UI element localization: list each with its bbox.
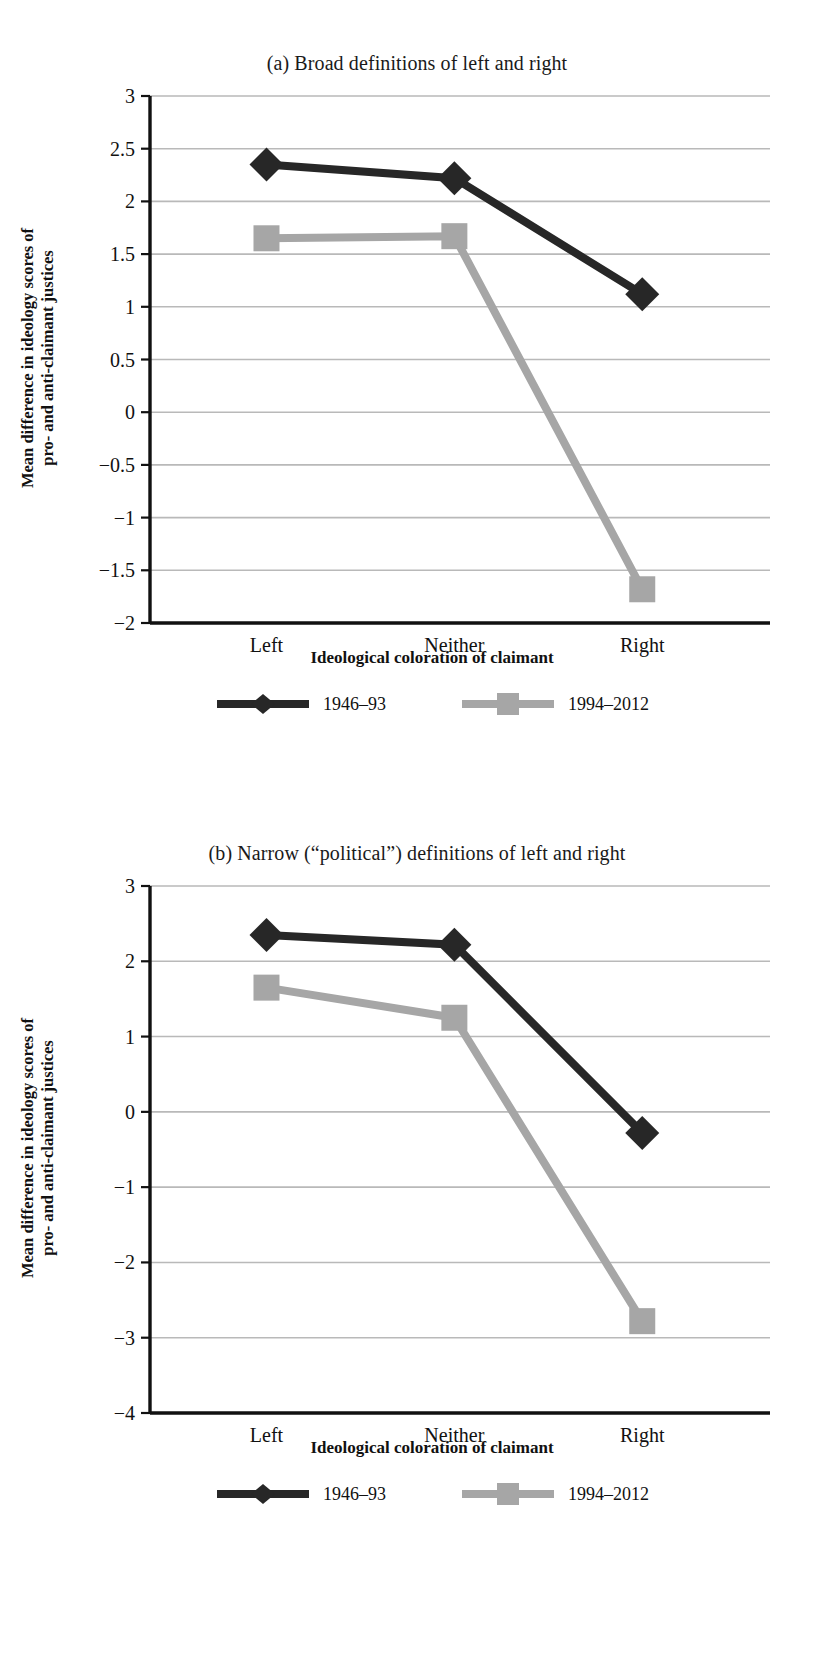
figure-page: (a) Broad definitions of left and right … bbox=[0, 0, 824, 1680]
y-tick-label: 1.5 bbox=[110, 243, 135, 265]
panel-a-svg: 32.521.510.50−0.5−1−1.5−2LeftNeitherRigh… bbox=[0, 78, 824, 678]
data-point-marker bbox=[253, 975, 279, 1001]
legend-square-icon bbox=[460, 691, 556, 717]
panel-b-x-axis-label: Ideological coloration of claimant bbox=[0, 1438, 824, 1458]
y-tick-label: 1 bbox=[125, 1026, 135, 1048]
legend-label-1994-2012: 1994–2012 bbox=[568, 1484, 649, 1505]
panel-b-legend: 1946–93 1994–2012 bbox=[0, 1481, 824, 1507]
y-tick-label: 0 bbox=[125, 401, 135, 423]
y-tick-label: 0 bbox=[125, 1101, 135, 1123]
data-point-marker bbox=[629, 576, 655, 602]
legend-label-1946-93: 1946–93 bbox=[323, 1484, 386, 1505]
data-point-marker bbox=[441, 223, 467, 249]
y-tick-label: 1 bbox=[125, 296, 135, 318]
data-point-marker bbox=[249, 918, 283, 952]
panel-a-legend: 1946–93 1994–2012 bbox=[0, 691, 824, 717]
legend-label-1946-93: 1946–93 bbox=[323, 694, 386, 715]
y-tick-label: −2 bbox=[114, 612, 135, 634]
legend-item-1994-2012: 1994–2012 bbox=[460, 1481, 649, 1507]
y-tick-label: −4 bbox=[114, 1402, 135, 1424]
chart-panel-a: (a) Broad definitions of left and right … bbox=[0, 48, 824, 838]
panel-b-title: (b) Narrow (“political”) definitions of … bbox=[0, 838, 824, 868]
chart-panel-b: (b) Narrow (“political”) definitions of … bbox=[0, 838, 824, 1628]
panel-a-title: (a) Broad definitions of left and right bbox=[0, 48, 824, 78]
y-tick-label: −3 bbox=[114, 1327, 135, 1349]
series-line-1994–2012 bbox=[266, 988, 642, 1322]
legend-square-icon bbox=[460, 1481, 556, 1507]
legend-diamond-icon bbox=[215, 1481, 311, 1507]
y-tick-label: 2 bbox=[125, 950, 135, 972]
legend-label-1994-2012: 1994–2012 bbox=[568, 694, 649, 715]
series-line-1946–93 bbox=[266, 935, 642, 1133]
y-tick-label: 3 bbox=[125, 85, 135, 107]
y-tick-label: 2 bbox=[125, 190, 135, 212]
data-point-marker bbox=[629, 1308, 655, 1334]
data-point-marker bbox=[441, 1005, 467, 1031]
y-tick-label: −0.5 bbox=[99, 454, 135, 476]
panel-b-svg: 3210−1−2−3−4LeftNeitherRight bbox=[0, 868, 824, 1468]
legend-item-1946-93: 1946–93 bbox=[215, 691, 386, 717]
data-point-marker bbox=[249, 148, 283, 182]
y-tick-label: 2.5 bbox=[110, 138, 135, 160]
y-tick-label: −1 bbox=[114, 507, 135, 529]
y-tick-label: 0.5 bbox=[110, 349, 135, 371]
legend-item-1946-93: 1946–93 bbox=[215, 1481, 386, 1507]
y-tick-label: −1 bbox=[114, 1176, 135, 1198]
legend-item-1994-2012: 1994–2012 bbox=[460, 691, 649, 717]
data-point-marker bbox=[253, 225, 279, 251]
panel-a-plot-area: Mean difference in ideology scores of pr… bbox=[0, 78, 824, 718]
legend-diamond-icon bbox=[215, 691, 311, 717]
y-tick-label: 3 bbox=[125, 875, 135, 897]
panel-a-x-axis-label: Ideological coloration of claimant bbox=[0, 648, 824, 668]
panel-b-plot-area: Mean difference in ideology scores of pr… bbox=[0, 868, 824, 1508]
y-tick-label: −2 bbox=[114, 1251, 135, 1273]
y-tick-label: −1.5 bbox=[99, 559, 135, 581]
